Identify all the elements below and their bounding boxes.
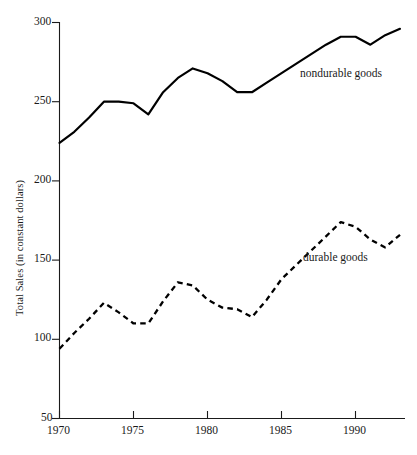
y-axis-title: Total Sales (in constant dollars) [14, 180, 25, 316]
x-axis-ticks [60, 411, 356, 418]
y-tick-label-250: 250 [34, 94, 51, 106]
x-tick-label-1980: 1980 [195, 424, 218, 436]
x-tick-label-1970: 1970 [47, 424, 70, 436]
y-tick-label-300: 300 [34, 15, 51, 27]
x-tick-label-1975: 1975 [121, 424, 144, 436]
series-label-durable-goods: durable goods [303, 251, 368, 263]
y-tick-label-100: 100 [34, 331, 51, 343]
y-axis-ticks [52, 23, 59, 419]
series-label-nondurable-goods: nondurable goods [300, 67, 382, 79]
y-tick-label-50: 50 [41, 411, 53, 423]
x-tick-label-1990: 1990 [343, 424, 366, 436]
y-tick-label-200: 200 [34, 173, 51, 185]
series-line-nondurable-goods [60, 29, 401, 143]
axis-lines [59, 22, 405, 419]
line-chart-figure: 300 250 200 150 100 50 1970 1975 1980 19… [0, 0, 417, 455]
y-tick-label-150: 150 [34, 252, 51, 264]
x-tick-label-1985: 1985 [269, 424, 292, 436]
series-line-durable-goods [60, 222, 401, 349]
